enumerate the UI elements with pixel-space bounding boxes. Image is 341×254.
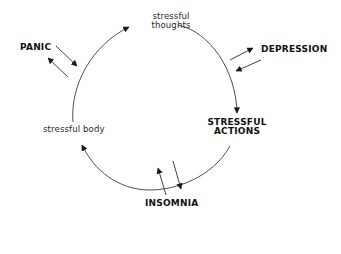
arc-body-to-thoughts — [73, 27, 129, 122]
depression-to-cycle-arrow — [236, 60, 261, 71]
node-stressful-actions: STRESSFUL ACTIONS — [203, 118, 271, 137]
node-body-label: stressful body — [43, 124, 105, 134]
factor-depression: DEPRESSION — [261, 45, 327, 54]
node-stressful-body: stressful body — [43, 125, 105, 134]
cycle-to-depression-arrow — [230, 48, 253, 60]
cycle-to-panic-arrow — [48, 58, 68, 77]
panic-label: PANIC — [20, 42, 51, 52]
insomnia-label: INSOMNIA — [145, 198, 198, 208]
depression-label: DEPRESSION — [261, 44, 327, 54]
arc-actions-to-body — [82, 145, 230, 190]
node-thoughts-line2: thoughts — [145, 21, 197, 30]
insomnia-to-cycle-arrow — [158, 168, 166, 195]
arc-thoughts-to-actions — [178, 25, 237, 113]
factor-insomnia: INSOMNIA — [145, 199, 198, 208]
factor-panic: PANIC — [20, 43, 51, 52]
stress-cycle-diagram: stressful thoughts STRESSFUL ACTIONS str… — [0, 0, 341, 254]
cycle-to-insomnia-arrow — [173, 161, 181, 189]
panic-to-cycle-arrow — [56, 46, 77, 66]
node-actions-line2: ACTIONS — [203, 127, 271, 136]
node-stressful-thoughts: stressful thoughts — [145, 12, 197, 30]
